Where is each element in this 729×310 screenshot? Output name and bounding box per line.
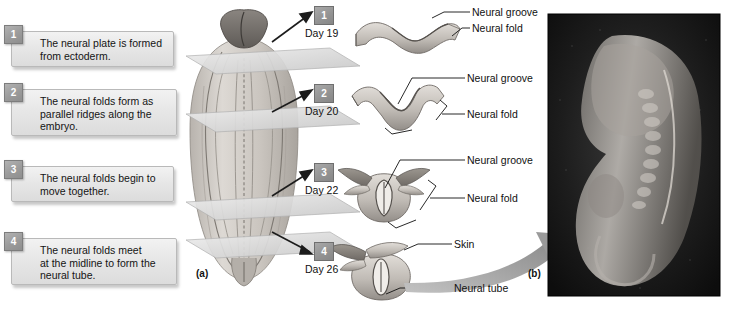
- stage-4-neural-tube-label: Neural tube: [454, 282, 508, 294]
- stage-2-day-label: Day 20: [305, 105, 338, 117]
- stage-pointer-arrows: [272, 12, 312, 254]
- stage-2-badge: 2: [314, 84, 334, 103]
- cross-section-stage-1: [356, 12, 470, 53]
- step-4-text: The neural folds meet at the midline to …: [40, 244, 169, 282]
- step-3-caption: The neural folds begin to move together.: [11, 166, 174, 202]
- stage-1-badge: 1: [314, 6, 334, 25]
- stage-1-neural-fold-label: Neural fold: [472, 22, 523, 34]
- step-4-badge: 4: [4, 232, 23, 251]
- step-1-badge: 1: [4, 25, 23, 44]
- embryo-micrograph: [548, 14, 720, 296]
- step-3-text: The neural folds begin to move together.: [40, 172, 166, 197]
- step-3-badge: 3: [4, 160, 23, 179]
- stage-3-neural-fold-label: Neural fold: [467, 192, 518, 204]
- panel-b-label: (b): [528, 268, 541, 279]
- stage-4-day-label: Day 26: [305, 263, 338, 275]
- cross-section-stage-2: [352, 78, 465, 134]
- stage-1-neural-groove-label: Neural groove: [472, 6, 538, 18]
- neural-tube-formation-figure: The neural plate is formed from ectoderm…: [0, 0, 729, 310]
- cross-section-stage-4: [330, 243, 452, 300]
- cross-section-stage-3: [338, 160, 465, 228]
- step-2-caption: The neural folds form as parallel ridges…: [11, 89, 177, 136]
- stage-1-day-label: Day 19: [305, 27, 338, 39]
- step-1-caption: The neural plate is formed from ectoderm…: [11, 31, 174, 67]
- stage-3-day-label: Day 22: [305, 184, 338, 196]
- step-2-badge: 2: [4, 83, 23, 102]
- step-4-caption: The neural folds meet at the midline to …: [11, 238, 177, 285]
- stage-2-neural-groove-label: Neural groove: [467, 72, 533, 84]
- step-2-text: The neural folds form as parallel ridges…: [40, 95, 169, 133]
- stage-4-badge: 4: [314, 242, 334, 261]
- embryo-dorsal-illustration: [190, 10, 298, 286]
- stage-3-neural-groove-label: Neural groove: [467, 154, 533, 166]
- cut-plane-1: [186, 48, 360, 74]
- step-1-text: The neural plate is formed from ectoderm…: [40, 37, 166, 62]
- cut-plane-3: [186, 194, 360, 220]
- stage-4-skin-label: Skin: [454, 238, 474, 250]
- panel-a-label: (a): [196, 268, 208, 279]
- stage-3-badge: 3: [314, 163, 334, 182]
- stage-2-neural-fold-label: Neural fold: [467, 108, 518, 120]
